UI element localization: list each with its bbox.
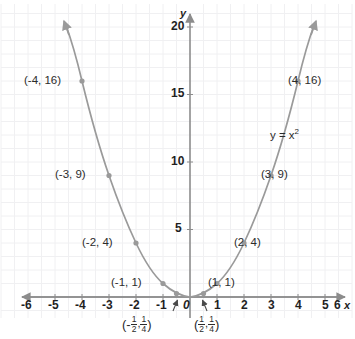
x-tick-2: 2 — [241, 300, 248, 311]
quarter-numerator-pos: 1 — [208, 315, 215, 324]
point-label-neg3-9: (-3, 9) — [55, 169, 86, 180]
equation-exponent: 2 — [295, 127, 299, 136]
graph-canvas: y 20 15 10 5 x -6 -5 -4 -3 -2 -1 0 1 2 3… — [0, 0, 355, 339]
y-tick-20: 20 — [171, 21, 184, 32]
parabola-plot — [0, 0, 355, 339]
x-tick-4: 4 — [295, 300, 302, 311]
point-label-2-4: (2, 4) — [234, 237, 261, 248]
x-axis-name: x — [344, 300, 350, 311]
point-label-half-quarter: (12,14) — [194, 315, 219, 334]
point-label-neg2-4: (-2, 4) — [82, 237, 113, 248]
y-tick-5: 5 — [175, 223, 182, 234]
point-label-4-16: (4, 16) — [288, 75, 321, 86]
y-tick-10: 10 — [171, 156, 184, 167]
paren-close-pos: ) — [215, 317, 219, 332]
x-tick-minus4: -4 — [75, 300, 86, 311]
fraction-one-quarter-pos: 14 — [208, 315, 215, 334]
origin-label: 0 — [183, 300, 190, 311]
y-axis-name: y — [180, 8, 186, 19]
x-tick-5: 5 — [322, 300, 329, 311]
point-label-neg-half-quarter: (-12,14) — [122, 315, 152, 334]
x-tick-6: 6 — [334, 300, 341, 311]
point-label-3-9: (3, 9) — [261, 169, 288, 180]
equation-text: y = x — [270, 129, 295, 141]
x-tick-minus6: -6 — [21, 300, 32, 311]
quarter-denominator-pos: 4 — [208, 324, 215, 334]
x-tick-minus5: -5 — [48, 300, 59, 311]
x-tick-1: 1 — [214, 300, 221, 311]
x-tick-3: 3 — [268, 300, 275, 311]
point-label-neg1-1: (-1, 1) — [111, 277, 142, 288]
paren-open-neg: (- — [122, 317, 131, 332]
point-label-1-1: (1, 1) — [208, 277, 235, 288]
equation-label: y = x2 — [270, 126, 299, 141]
point-label-neg4-16: (-4, 16) — [24, 75, 61, 86]
x-tick-minus3: -3 — [102, 300, 113, 311]
x-tick-minus2: -2 — [129, 300, 140, 311]
x-tick-minus1: -1 — [156, 300, 167, 311]
paren-close-neg: ) — [147, 317, 151, 332]
y-tick-15: 15 — [171, 88, 184, 99]
